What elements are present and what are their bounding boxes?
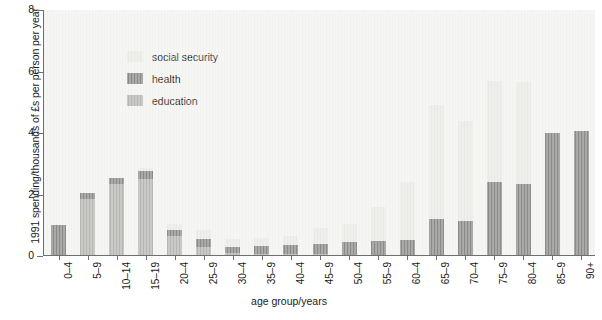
bar-segment-health [313,244,328,255]
x-tick-label: 65–9 [440,262,451,284]
x-tick-label: 40–4 [295,262,306,284]
bar-segment-social-security [516,82,531,183]
bar-segment-social-security [487,81,502,182]
plot-area: social security health education [43,10,595,256]
bar-segment-health [342,242,357,254]
chart-legend: social security health education [127,48,218,114]
bar-segment-health [51,225,66,256]
x-axis-title: age group/years [0,295,602,307]
x-tick-mark [349,256,350,260]
legend-item: health [127,70,218,87]
bar-segment-social-security [400,182,415,240]
y-tick-mark [37,195,43,196]
x-tick-label: 75–9 [498,262,509,284]
bar-segment-social-security [371,207,386,241]
bar-segment-health [283,245,298,254]
bar-group[interactable] [167,224,182,256]
legend-item: education [127,92,218,109]
x-tick-mark [320,256,321,260]
x-tick-mark [494,256,495,260]
legend-label: health [152,73,181,85]
y-tick-mark [37,256,43,257]
x-tick-mark [233,256,234,260]
x-tick-label: 0–4 [63,262,74,279]
x-tick-label: 45–9 [324,262,335,284]
bar-segment-health [458,221,473,256]
x-tick-mark [523,256,524,260]
legend-label: education [152,95,198,107]
y-tick-label: 0 [0,249,34,261]
x-tick-label: 25–9 [208,262,219,284]
x-tick-label: 30–4 [237,262,248,284]
x-tick-mark [291,256,292,260]
bar-segment-social-security [196,230,211,239]
x-tick-mark [88,256,89,260]
x-tick-mark [59,256,60,260]
x-tick-label: 50–4 [353,262,364,284]
y-tick-label: 8 [0,3,34,15]
bar-segment-social-security [254,238,269,246]
bar-segment-education [80,199,95,256]
x-tick-mark [175,256,176,260]
bar-group[interactable] [400,182,415,256]
bar-group[interactable] [109,178,124,256]
x-tick-label: 85–9 [556,262,567,284]
bar-segment-health [138,171,153,179]
x-tick-label: 55–9 [382,262,393,284]
bar-group[interactable] [80,193,95,256]
bar-segment-health [196,239,211,247]
bar-segment-health [574,131,589,256]
x-tick-mark [581,256,582,260]
legend-swatch-social-security [127,51,143,62]
bar-group[interactable] [458,121,473,256]
bar-group[interactable] [51,225,66,256]
bar-group[interactable] [574,131,589,256]
bar-group[interactable] [516,82,531,256]
bar-group[interactable] [313,228,328,256]
bar-group[interactable] [371,207,386,256]
x-tick-label: 15–19 [150,262,161,290]
bar-segment-health [429,219,444,256]
bar-group[interactable] [138,168,153,256]
bar-segment-education [109,184,124,256]
legend-item: social security [127,48,218,65]
bar-segment-education [167,236,182,256]
bar-group[interactable] [196,230,211,256]
x-tick-mark [465,256,466,260]
x-tick-mark [407,256,408,260]
bar-segment-social-security [283,236,298,245]
x-tick-mark [378,256,379,260]
bar-group[interactable] [487,81,502,256]
y-tick-label: 4 [0,126,34,138]
x-tick-mark [146,256,147,260]
x-tick-label: 5–9 [92,262,103,279]
x-tick-mark [204,256,205,260]
x-tick-label: 70–4 [469,262,480,284]
bar-group[interactable] [545,133,560,256]
x-tick-label: 35–9 [266,262,277,284]
chart-figure: 1991 spending/thousands of £s per person… [0,0,602,320]
bar-group[interactable] [342,224,357,256]
x-tick-mark [262,256,263,260]
x-tick-mark [436,256,437,260]
bar-group[interactable] [283,236,298,256]
legend-label: social security [152,51,218,63]
bar-group[interactable] [429,105,444,256]
y-axis-line [43,10,44,256]
legend-swatch-health [127,73,143,84]
y-tick-label: 2 [0,188,34,200]
x-tick-label: 80–4 [527,262,538,284]
bar-group[interactable] [225,239,240,256]
bar-segment-health [487,182,502,256]
y-tick-label: 6 [0,65,34,77]
y-tick-mark [37,10,43,11]
bar-group[interactable] [254,238,269,256]
y-tick-mark [37,133,43,134]
x-tick-label: 90+ [585,262,596,279]
bar-segment-health [254,246,269,254]
bar-segment-social-security [313,228,328,243]
bar-segment-health [545,133,560,256]
y-tick-mark [37,72,43,73]
bar-segment-social-security [225,239,240,247]
bar-segment-health [400,240,415,255]
